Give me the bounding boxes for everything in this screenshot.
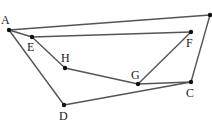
points — [7, 13, 212, 107]
segment-ae — [9, 30, 32, 37]
point-e — [30, 35, 34, 39]
point-c — [189, 80, 193, 84]
segments — [9, 15, 210, 105]
label-d: D — [59, 109, 68, 123]
label-e: E — [27, 40, 34, 54]
label-h: H — [61, 51, 70, 65]
label-a: A — [1, 13, 10, 27]
labels: ACDEFGH — [1, 13, 194, 123]
point-b — [208, 13, 212, 17]
point-h — [63, 66, 67, 70]
label-c: C — [186, 86, 194, 100]
label-g: G — [131, 68, 140, 82]
segment-ab — [9, 15, 210, 30]
segment-gf — [138, 32, 191, 84]
segment-dc — [64, 82, 191, 105]
point-a — [7, 28, 11, 32]
label-f: F — [186, 36, 193, 50]
point-d — [62, 103, 66, 107]
segment-hg — [65, 68, 138, 84]
point-g — [136, 82, 140, 86]
segment-ef — [32, 32, 191, 37]
point-f — [189, 30, 193, 34]
segment-cb — [191, 15, 210, 82]
geometry-diagram: ACDEFGH — [0, 0, 212, 128]
